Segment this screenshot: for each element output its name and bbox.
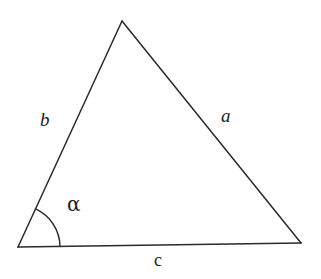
- triangle-figure: b a c α: [0, 0, 321, 279]
- side-label-b: b: [40, 110, 50, 129]
- side-label-c: c: [154, 251, 162, 269]
- side-label-a: a: [221, 106, 231, 125]
- triangle-drawing: [0, 0, 321, 279]
- triangle-side-a-line: [122, 21, 301, 243]
- angle-arc-alpha: [36, 209, 60, 247]
- angle-label-alpha: α: [67, 194, 81, 214]
